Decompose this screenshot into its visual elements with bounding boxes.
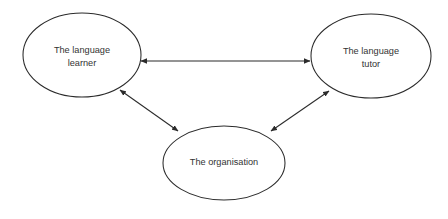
edge-line-learner-organisation [120,90,178,131]
node-language-learner-label-line1: The language [54,45,110,55]
node-organisation[interactable]: The organisation [163,126,285,200]
node-language-learner[interactable]: The language learner [23,13,141,97]
node-language-tutor-label-line2: tutor [362,59,380,69]
edge-learner-organisation [120,90,178,131]
node-organisation-label: The organisation [190,157,258,167]
relationship-diagram: The language learner The language tutor … [0,0,448,219]
node-language-tutor[interactable]: The language tutor [311,14,431,98]
node-language-learner-label-line2: learner [68,58,97,68]
node-language-tutor-label-line1: The language [343,46,399,56]
edge-line-organisation-tutor [271,91,329,131]
diagram-canvas: The language learner The language tutor … [0,0,448,219]
edge-organisation-tutor [271,91,329,131]
